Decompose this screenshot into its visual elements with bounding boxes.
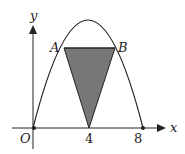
origin-point [32,126,36,130]
origin-label: O [20,131,31,146]
x-axis-arrow-icon [157,124,166,132]
y-axis-arrow-icon [29,25,37,34]
x8-point [141,126,145,130]
point-a-label: A [49,40,59,55]
y-axis-label: y [29,8,38,23]
x-axis-label: x [170,120,178,135]
x-tick-4: 4 [85,131,93,146]
shaded-triangle [64,48,115,128]
point-b-label: B [117,40,128,55]
x-tick-8: 8 [134,131,142,146]
parabola-diagram: y x O 4 8 A B [0,0,185,154]
